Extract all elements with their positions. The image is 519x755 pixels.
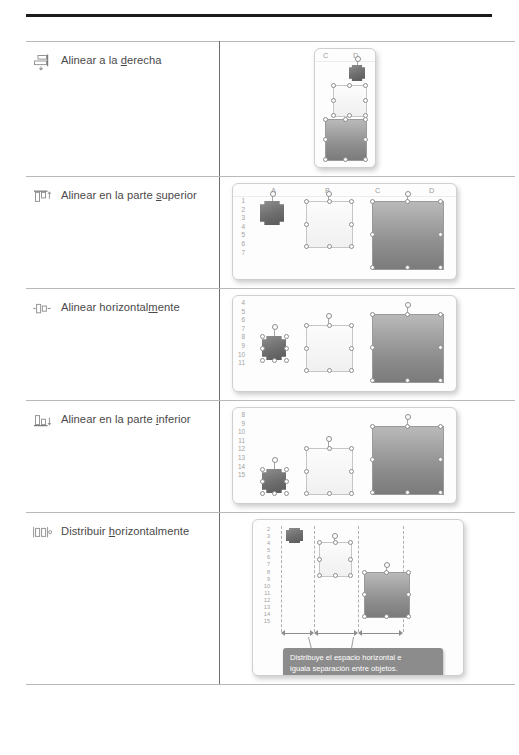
callout-tooltip: Distribuye el espacio horizontal e igual… <box>283 648 443 676</box>
star-shape <box>262 469 286 493</box>
command-label-cell: Alinear horizontalmente <box>26 289 220 401</box>
row-header: 12 <box>261 597 270 604</box>
rounded-rectangle-shape <box>306 201 351 246</box>
excel-illustration: A B C D 1 2 3 4 5 6 7 <box>232 183 457 280</box>
command-label: Alinear en la parte inferior <box>61 412 191 426</box>
figure-cell: C D <box>220 42 516 177</box>
align-middle-icon <box>32 301 52 318</box>
row-header: 10 <box>261 583 270 590</box>
star-shape <box>262 336 286 360</box>
callout-leader-line <box>308 637 312 649</box>
distribute-guide <box>358 526 359 632</box>
row-header: 8 <box>236 411 245 420</box>
rectangle-shape <box>364 572 408 616</box>
row-header: 14 <box>236 463 245 472</box>
row-header: 8 <box>236 333 245 342</box>
top-horizontal-rule <box>26 14 492 17</box>
row-header: 10 <box>236 428 245 437</box>
distribute-horizontally-icon <box>32 525 52 542</box>
callout-line-1: Distribuye el espacio horizontal e <box>290 653 436 664</box>
row-header: 9 <box>236 420 245 429</box>
row-header: 8 <box>261 569 270 576</box>
rounded-rectangle-shape <box>306 448 351 493</box>
row-header: 15 <box>236 471 245 480</box>
excel-illustration: 8 9 10 11 12 13 14 15 <box>232 407 457 504</box>
row-header: 15 <box>261 618 270 625</box>
row-header: 4 <box>236 299 245 308</box>
table-row: Alinear en la parte inferior 8 9 10 11 1… <box>26 401 515 513</box>
row-header: 13 <box>261 604 270 611</box>
document-page: Alinear a la derecha C D <box>0 0 519 755</box>
rounded-rectangle-shape <box>333 85 365 115</box>
command-reference-table: Alinear a la derecha C D <box>26 41 515 685</box>
row-header: 6 <box>236 316 245 325</box>
command-label: Distribuir horizontalmente <box>61 524 189 538</box>
row-header: 4 <box>236 223 245 232</box>
table-row: Alinear en la parte superior A B C D 1 <box>26 177 515 289</box>
command-label-cell: Distribuir horizontalmente <box>26 513 220 685</box>
figure-cell: A B C D 1 2 3 4 5 6 7 <box>220 177 516 289</box>
row-header-strip: 8 9 10 11 12 13 14 15 <box>236 411 245 480</box>
column-header: D <box>429 186 434 195</box>
row-header: 11 <box>236 359 245 368</box>
table-row: Alinear horizontalmente 4 5 6 7 8 9 10 <box>26 289 515 401</box>
command-label-cell: Alinear en la parte inferior <box>26 401 220 513</box>
rectangle-shape <box>372 201 442 268</box>
table-row: Distribuir horizontalmente 2 3 4 5 6 7 8 <box>26 513 515 685</box>
row-header: 4 <box>261 540 270 547</box>
row-header: 7 <box>236 249 245 258</box>
command-label: Alinear horizontalmente <box>61 300 180 314</box>
row-header: 13 <box>236 454 245 463</box>
spacing-measure-arrow <box>281 630 314 637</box>
table-row: Alinear a la derecha C D <box>26 42 515 177</box>
command-label-cell: Alinear a la derecha <box>26 42 220 177</box>
row-header: 2 <box>236 206 245 215</box>
row-header: 5 <box>236 231 245 240</box>
command-label: Alinear a la derecha <box>61 53 162 67</box>
row-header: 11 <box>261 590 270 597</box>
command-label: Alinear en la parte superior <box>61 188 197 202</box>
column-header: C <box>323 51 328 60</box>
row-header-strip: 2 3 4 5 6 7 8 9 10 11 12 13 14 <box>261 526 270 625</box>
row-header: 9 <box>236 342 245 351</box>
row-header-strip: 1 2 3 4 5 6 7 <box>236 197 245 257</box>
spacing-measure-arrow <box>358 630 403 637</box>
row-header: 10 <box>236 351 245 360</box>
command-label-cell: Alinear en la parte superior <box>26 177 220 289</box>
row-header: 14 <box>261 611 270 618</box>
row-header-strip: 4 5 6 7 8 9 10 11 <box>236 299 245 368</box>
figure-cell: 2 3 4 5 6 7 8 9 10 11 12 13 14 <box>220 513 516 685</box>
callout-line-2: iguala separación entre objetos. <box>290 664 436 675</box>
distribute-guide <box>281 526 282 632</box>
figure-cell: 4 5 6 7 8 9 10 11 <box>220 289 516 401</box>
star-shape <box>286 528 303 543</box>
distribute-guide <box>314 526 315 632</box>
row-header: 11 <box>236 437 245 446</box>
column-header: C <box>375 186 380 195</box>
rectangle-shape <box>325 119 365 159</box>
rounded-rectangle-shape <box>306 325 351 370</box>
star-shape <box>349 65 365 81</box>
rectangle-shape <box>372 426 442 493</box>
row-header: 1 <box>236 197 245 206</box>
row-header: 9 <box>261 576 270 583</box>
row-header: 3 <box>236 214 245 223</box>
rounded-rectangle-shape <box>319 542 350 575</box>
align-right-icon <box>32 54 52 71</box>
row-header: 6 <box>261 554 270 561</box>
row-header: 5 <box>236 308 245 317</box>
row-header: 5 <box>261 547 270 554</box>
excel-illustration: C D <box>314 48 376 168</box>
rectangle-shape <box>372 314 442 381</box>
excel-illustration: 4 5 6 7 8 9 10 11 <box>232 295 457 392</box>
row-header: 7 <box>261 561 270 568</box>
excel-illustration: 2 3 4 5 6 7 8 9 10 11 12 13 14 <box>252 519 464 676</box>
spacing-measure-arrow <box>314 630 358 637</box>
row-header: 6 <box>236 240 245 249</box>
row-header: 7 <box>236 325 245 334</box>
row-header: 3 <box>261 533 270 540</box>
row-header: 2 <box>261 526 270 533</box>
align-bottom-icon <box>32 413 52 430</box>
row-header: 12 <box>236 445 245 454</box>
star-shape <box>260 201 284 225</box>
